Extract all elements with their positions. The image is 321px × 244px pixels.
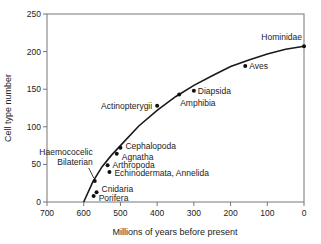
data-point: Aves <box>243 61 268 71</box>
point-marker <box>107 170 111 174</box>
point-marker <box>192 89 196 93</box>
point-label: Cephalopoda <box>125 141 176 151</box>
point-marker <box>95 190 99 194</box>
x-axis-ticks: 7006005004003002001000 <box>40 202 307 218</box>
point-label: Amphibia <box>180 98 216 108</box>
point-marker <box>93 179 97 183</box>
x-tick-label: 700 <box>40 208 54 218</box>
point-marker <box>177 92 181 96</box>
data-point: HaemococelicBilaterian <box>39 147 96 183</box>
point-label: Diapsida <box>198 86 231 96</box>
fit-curve <box>84 46 304 202</box>
y-axis-ticks: 050100150200250 <box>27 9 47 207</box>
x-tick-label: 100 <box>260 208 274 218</box>
point-marker <box>115 152 119 156</box>
point-marker <box>302 44 306 48</box>
y-tick-label: 100 <box>27 122 41 132</box>
point-marker <box>155 104 159 108</box>
y-tick-label: 50 <box>32 159 42 169</box>
data-point: Actinopterygii <box>101 101 159 111</box>
point-label: Actinopterygii <box>101 101 152 111</box>
y-tick-label: 200 <box>27 47 41 57</box>
point-label: Aves <box>249 61 268 71</box>
point-label: Bilaterian <box>57 157 93 167</box>
y-axis-label: Cell type number <box>3 74 13 142</box>
x-tick-label: 600 <box>77 208 91 218</box>
x-tick-label: 300 <box>187 208 201 218</box>
point-label: Porifera <box>99 193 129 203</box>
data-point: Porifera <box>92 193 129 203</box>
point-label: Cnidaria <box>102 184 134 194</box>
y-tick-label: 150 <box>27 84 41 94</box>
data-points: PoriferaCnidariaHaemococelicBilaterianEc… <box>39 32 306 203</box>
data-point: Cephalopoda <box>118 141 176 151</box>
point-label: Hominidae <box>261 32 302 42</box>
x-tick-label: 0 <box>302 208 307 218</box>
y-tick-label: 0 <box>36 197 41 207</box>
y-tick-label: 250 <box>27 9 41 19</box>
point-marker <box>92 194 96 198</box>
point-label: Haemococelic <box>39 147 93 157</box>
chart: 050100150200250 7006005004003002001000 P… <box>0 0 321 244</box>
point-label: Agnatha <box>122 152 154 162</box>
data-point: Hominidae <box>261 32 306 48</box>
data-point: Diapsida <box>192 86 231 96</box>
annotation-arrow <box>89 168 94 178</box>
point-marker <box>106 163 110 167</box>
x-tick-label: 400 <box>150 208 164 218</box>
x-axis-label: Millions of years before present <box>112 227 238 237</box>
x-tick-label: 200 <box>223 208 237 218</box>
point-marker <box>118 146 122 150</box>
x-tick-label: 500 <box>113 208 127 218</box>
point-marker <box>243 64 247 68</box>
